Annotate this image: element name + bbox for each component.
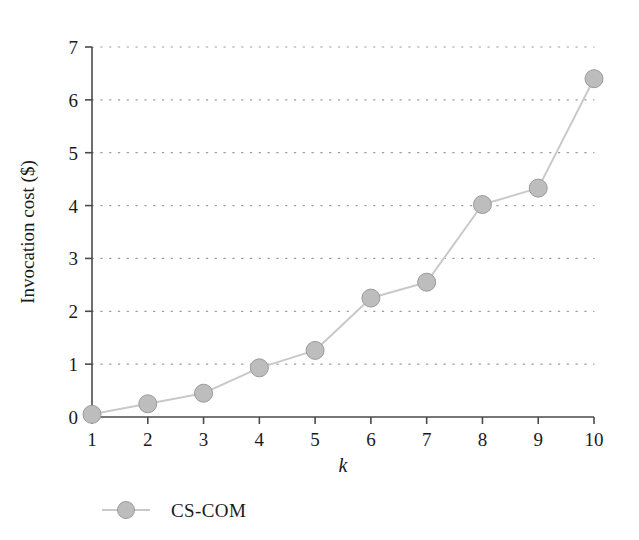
y-tick-label-1: 1	[69, 354, 79, 375]
data-point-cs-com-k2	[139, 395, 157, 413]
x-tick-label-10: 10	[585, 429, 604, 450]
data-point-cs-com-k8	[473, 196, 491, 214]
y-tick-label-5: 5	[69, 143, 79, 164]
x-axis-label: k	[339, 454, 349, 476]
x-tick-label-7: 7	[422, 429, 432, 450]
x-tick-label-2: 2	[143, 429, 153, 450]
invocation-cost-line-chart: 01234567 12345678910 Invocation cost ($)…	[0, 0, 639, 540]
data-point-cs-com-k5	[306, 341, 324, 359]
x-tick-label-8: 8	[478, 429, 488, 450]
data-point-cs-com-k1	[83, 405, 101, 423]
legend-marker-cs-com	[118, 502, 135, 519]
data-point-cs-com-k6	[362, 289, 380, 307]
y-tick-label-7: 7	[69, 37, 79, 58]
x-tick-label-5: 5	[310, 429, 320, 450]
x-tick-label-6: 6	[366, 429, 376, 450]
x-tick-label-1: 1	[87, 429, 97, 450]
y-tick-label-0: 0	[69, 407, 79, 428]
legend-label-cs-com: CS-COM	[171, 500, 246, 521]
x-tick-label-4: 4	[255, 429, 265, 450]
data-point-cs-com-k3	[195, 384, 213, 402]
y-tick-label-2: 2	[69, 301, 79, 322]
y-tick-label-6: 6	[69, 90, 79, 111]
chart-background	[0, 0, 639, 540]
x-tick-label-3: 3	[199, 429, 209, 450]
data-point-cs-com-k9	[529, 179, 547, 197]
y-tick-label-3: 3	[69, 248, 79, 269]
chart-legend: CS-COM	[102, 500, 246, 521]
y-axis-label: Invocation cost ($)	[17, 160, 39, 304]
x-tick-label-9: 9	[533, 429, 543, 450]
data-point-cs-com-k4	[250, 359, 268, 377]
data-point-cs-com-k7	[418, 273, 436, 291]
data-point-cs-com-k10	[585, 70, 603, 88]
y-tick-label-4: 4	[69, 196, 79, 217]
chart-figure: 01234567 12345678910 Invocation cost ($)…	[0, 0, 639, 540]
